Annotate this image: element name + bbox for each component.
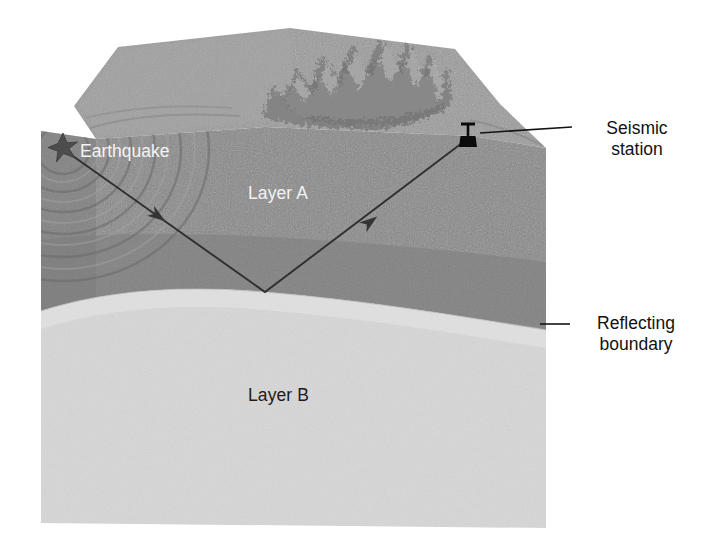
earthquake-label: Earthquake — [80, 141, 170, 162]
layer-b-face — [41, 289, 546, 528]
diagram-canvas — [0, 0, 701, 557]
surface-highlight — [80, 30, 300, 136]
reflecting-boundary-label: Reflecting boundary — [574, 313, 698, 355]
layer-a-label: Layer A — [248, 183, 308, 204]
layer-b-label: Layer B — [248, 385, 309, 406]
seismic-reflection-figure: Seismic station Reflecting boundary Laye… — [0, 0, 701, 557]
seismic-station-label: Seismic station — [578, 118, 696, 160]
